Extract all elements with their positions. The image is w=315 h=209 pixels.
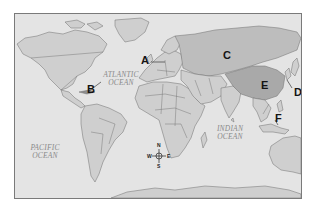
australia — [269, 136, 301, 174]
region-label-c: C — [223, 50, 231, 61]
ocean-label-pacific: PACIFIC OCEAN — [23, 144, 67, 159]
region-label-b: B — [87, 84, 95, 95]
region-label-a: A — [141, 55, 149, 66]
compass-east: E — [167, 154, 170, 159]
compass-rose: N S W E — [147, 143, 171, 169]
ocean-label-atlantic: ATLANTIC OCEAN — [96, 71, 146, 86]
region-label-d: D — [294, 87, 302, 98]
south-america — [81, 104, 127, 182]
region-label-f: F — [275, 113, 282, 124]
north-america — [17, 30, 107, 90]
southeast-asia — [253, 98, 271, 122]
ocean-label-indian: INDIAN OCEAN — [208, 125, 252, 140]
region-label-e: E — [261, 80, 268, 91]
compass-south: S — [157, 164, 160, 169]
map-shapes — [15, 14, 301, 198]
compass-north: N — [157, 143, 161, 148]
world-map: ATLANTIC OCEAN PACIFIC OCEAN INDIAN OCEA… — [14, 13, 302, 199]
greenland — [115, 18, 149, 42]
antarctica — [111, 186, 301, 198]
compass-west: W — [147, 154, 152, 159]
russia — [175, 26, 301, 76]
japan — [291, 58, 299, 76]
